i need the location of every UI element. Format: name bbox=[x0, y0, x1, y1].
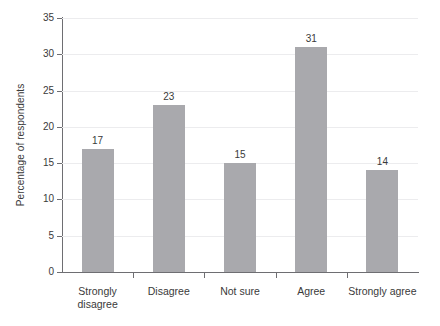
x-axis-category-label: Not sure bbox=[204, 285, 275, 298]
y-axis-tick-label: 30 bbox=[28, 49, 54, 59]
x-axis-tick-mark bbox=[133, 273, 134, 278]
gridline bbox=[62, 54, 418, 55]
y-axis-tick-mark bbox=[57, 163, 62, 164]
y-axis-tick-label: 20 bbox=[28, 122, 54, 132]
x-axis-category-label: Agree bbox=[276, 285, 347, 298]
y-axis-tick-mark bbox=[57, 127, 62, 128]
y-axis-tick-mark bbox=[57, 91, 62, 92]
bar[interactable] bbox=[153, 105, 185, 272]
bar[interactable] bbox=[366, 170, 398, 272]
x-axis-category-label: Strongly disagree bbox=[62, 285, 133, 311]
y-axis-tick-mark bbox=[57, 54, 62, 55]
y-axis-tick-label: 0 bbox=[28, 267, 54, 277]
x-axis-category-label: Disagree bbox=[133, 285, 204, 298]
y-axis-tick-mark bbox=[57, 18, 62, 19]
y-axis-tick-mark bbox=[57, 236, 62, 237]
bar[interactable] bbox=[224, 163, 256, 272]
y-axis-tick-mark bbox=[57, 272, 62, 273]
x-axis-tick-mark bbox=[347, 273, 348, 278]
x-axis-tick-mark bbox=[204, 273, 205, 278]
bar-value-label: 17 bbox=[73, 135, 123, 146]
bar-value-label: 31 bbox=[286, 33, 336, 44]
bar-value-label: 15 bbox=[215, 149, 265, 160]
x-axis-tick-mark bbox=[276, 273, 277, 278]
x-axis-line bbox=[62, 272, 419, 273]
y-axis-tick-label: 15 bbox=[28, 158, 54, 168]
y-axis-tick-label: 25 bbox=[28, 86, 54, 96]
gridline bbox=[62, 18, 418, 19]
y-axis-title: Percentage of respondents bbox=[14, 18, 28, 272]
y-axis-tick-label: 35 bbox=[28, 13, 54, 23]
bar[interactable] bbox=[295, 47, 327, 272]
y-axis-tick-label: 5 bbox=[28, 231, 54, 241]
bar[interactable] bbox=[82, 149, 114, 272]
bar-value-label: 23 bbox=[144, 91, 194, 102]
gridline bbox=[62, 127, 418, 128]
y-axis-tick-label: 10 bbox=[28, 194, 54, 204]
x-axis-category-label: Strongly agree bbox=[347, 285, 418, 298]
gridline bbox=[62, 91, 418, 92]
bar-chart: Percentage of respondents 05101520253035… bbox=[0, 0, 440, 326]
y-axis-tick-mark bbox=[57, 199, 62, 200]
bar-value-label: 14 bbox=[357, 156, 407, 167]
